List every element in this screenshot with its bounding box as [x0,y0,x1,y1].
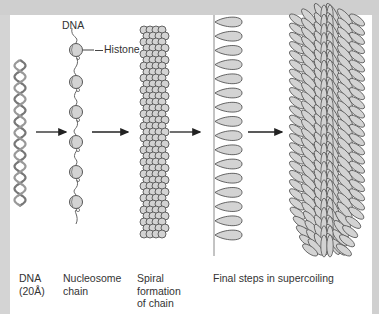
stage-label-spiral: Spiralformationof chain [137,272,181,310]
histone-label-text: Histone [104,43,140,55]
stage-label-line: formation [137,285,181,298]
histone-callout-label: Histone [95,43,140,55]
dna-callout-label: DNA [62,19,84,31]
stage-label-line: Final steps in supercoiling [213,272,334,285]
stage-label-supercoil: Final steps in supercoiling [213,272,334,285]
histone-leader-line [95,50,103,51]
stage-label-nucleosome: Nucleosomechain [63,272,121,297]
stage-label-line: (20Å) [19,285,45,298]
spiral-chain-column [140,26,169,238]
dna-double-helix [15,60,26,206]
stage-label-line: DNA [19,272,45,285]
chromatin-diagram [0,0,379,314]
stage-label-line: chain [63,285,121,298]
loop-column [214,15,242,256]
nucleosome-chain [70,28,95,224]
stage-label-line: of chain [137,297,181,310]
stage-label-dna: DNA(20Å) [19,272,45,297]
supercoiled-chromosome [288,2,367,258]
stage-label-line: Spiral [137,272,181,285]
stage-label-line: Nucleosome [63,272,121,285]
